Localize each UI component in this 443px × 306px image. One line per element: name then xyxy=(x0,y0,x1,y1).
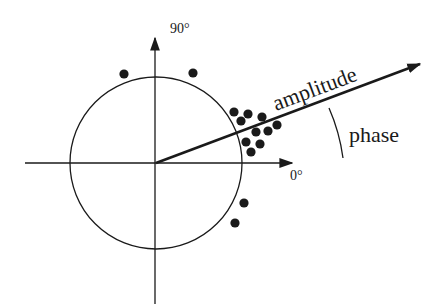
data-point xyxy=(272,120,281,129)
data-point xyxy=(257,112,266,121)
data-point xyxy=(230,218,239,227)
phase-arc xyxy=(329,108,343,158)
data-point xyxy=(188,68,197,77)
phase-label: phase xyxy=(349,122,399,147)
phasor-diagram: 90° 0° amplitude phase xyxy=(0,0,443,306)
y-axis-label: 90° xyxy=(170,21,190,36)
x-axis-label: 0° xyxy=(290,168,303,183)
data-point xyxy=(243,109,252,118)
data-point xyxy=(229,107,238,116)
data-point xyxy=(246,147,255,156)
data-point xyxy=(239,198,248,207)
data-point xyxy=(255,139,264,148)
data-points xyxy=(119,68,281,227)
amplitude-label: amplitude xyxy=(269,61,360,115)
data-point xyxy=(119,69,128,78)
data-point xyxy=(263,126,272,135)
data-point xyxy=(251,127,260,136)
amplitude-vector xyxy=(156,64,420,163)
data-point xyxy=(236,116,245,125)
data-point xyxy=(241,137,250,146)
